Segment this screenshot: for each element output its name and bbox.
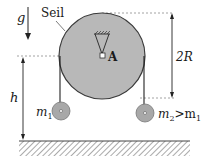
pulley-diagram: g Seil A m1 m2>m1 h	[0, 0, 204, 163]
rope-label: Seil	[41, 6, 64, 20]
height-dimension-arrow	[21, 57, 25, 140]
ground	[19, 141, 190, 156]
gravity-arrow-icon	[25, 7, 31, 40]
gravity-label: g	[17, 10, 25, 25]
rope-leader-line	[56, 21, 65, 31]
height-label: h	[10, 90, 18, 105]
mass-m2	[136, 104, 154, 122]
mass-m1	[52, 102, 70, 120]
diameter-label: 2R	[175, 50, 193, 64]
mass2-label: m2>m1	[158, 107, 201, 123]
mass1-label: m1	[36, 105, 52, 121]
pivot-label: A	[107, 50, 118, 64]
diameter-dimension-arrow	[170, 13, 174, 98]
